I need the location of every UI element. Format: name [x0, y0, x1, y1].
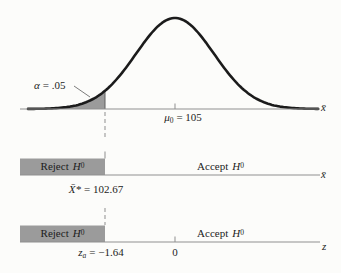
z-subscript: a: [83, 251, 87, 260]
alpha-symbol: α: [34, 79, 40, 91]
critical-xbar-value: = 102.67: [84, 183, 123, 195]
alpha-pointer-line: [74, 86, 90, 97]
h0-subscript: 0: [81, 162, 85, 170]
z-axis-label: z: [322, 240, 326, 252]
xbar-star-symbol: X̄*: [69, 183, 81, 195]
accept-region-label-z: AcceptH0: [183, 225, 258, 242]
mu-subscript: 0: [170, 116, 174, 125]
zero-tick-label: 0: [167, 246, 183, 258]
h0-symbol: H: [232, 160, 240, 172]
h0-symbol: H: [232, 227, 240, 239]
accept-region-label-xbar: AcceptH0: [183, 158, 258, 175]
reject-region-label-xbar: RejectH0: [20, 158, 105, 175]
alpha-value: = .05: [43, 79, 66, 91]
mean-value: = 105: [176, 111, 201, 123]
reject-region-label-z: RejectH0: [20, 225, 105, 242]
critical-z-value: = −1.64: [89, 246, 123, 258]
h0-subscript: 0: [81, 229, 85, 237]
reject-word: Reject: [41, 227, 69, 239]
hypothesis-test-figure: α= .05 μ0= 105 x̄ RejectH0 AcceptH0 x̄ X…: [0, 0, 341, 273]
h0-symbol: H: [73, 227, 81, 239]
critical-z-label: za= −1.64: [61, 246, 141, 260]
reject-word: Reject: [41, 160, 69, 172]
h0-symbol: H: [73, 160, 81, 172]
alpha-label: α= .05: [34, 79, 66, 91]
mean-label: μ0= 105: [133, 111, 233, 125]
xbar-axis-label-decision: x̄: [321, 168, 326, 180]
h0-subscript: 0: [240, 229, 244, 237]
accept-word: Accept: [197, 160, 228, 172]
normal-curve: [28, 18, 318, 109]
h0-subscript: 0: [240, 162, 244, 170]
xbar-axis-label-top: x̄: [321, 101, 326, 113]
critical-xbar-label: X̄*= 102.67: [56, 183, 136, 195]
accept-word: Accept: [197, 227, 228, 239]
